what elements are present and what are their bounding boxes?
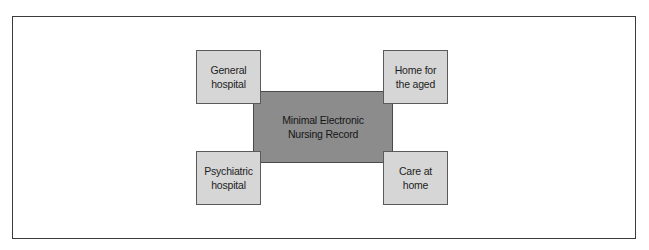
node-label: Home for the aged <box>395 63 437 91</box>
node-label: General hospital <box>211 63 247 91</box>
node-label: Psychiatric hospital <box>204 164 253 192</box>
node-home-for-the-aged: Home for the aged <box>383 50 448 104</box>
node-care-at-home: Care at home <box>383 151 448 205</box>
node-label: Care at home <box>399 164 432 192</box>
central-node-minimal-electronic-nursing-record: Minimal Electronic Nursing Record <box>253 91 393 163</box>
node-psychiatric-hospital: Psychiatric hospital <box>196 151 261 205</box>
node-general-hospital: General hospital <box>196 50 261 104</box>
central-node-label: Minimal Electronic Nursing Record <box>282 113 364 141</box>
